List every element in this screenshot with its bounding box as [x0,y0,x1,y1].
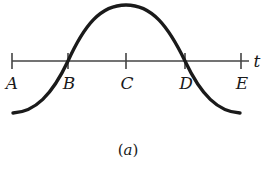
point-label-b: B [62,73,76,93]
point-label-c: C [120,73,133,93]
caption-close-paren: ) [132,141,138,159]
point-label-a: A [4,73,18,93]
point-label-e: E [235,73,249,93]
point-label-d: D [178,73,193,93]
caption-letter: a [124,141,133,159]
axis-label-t: t [254,51,261,71]
wave-diagram: A B C D E t (a) [0,0,262,184]
figure-caption: (a) [118,141,139,159]
